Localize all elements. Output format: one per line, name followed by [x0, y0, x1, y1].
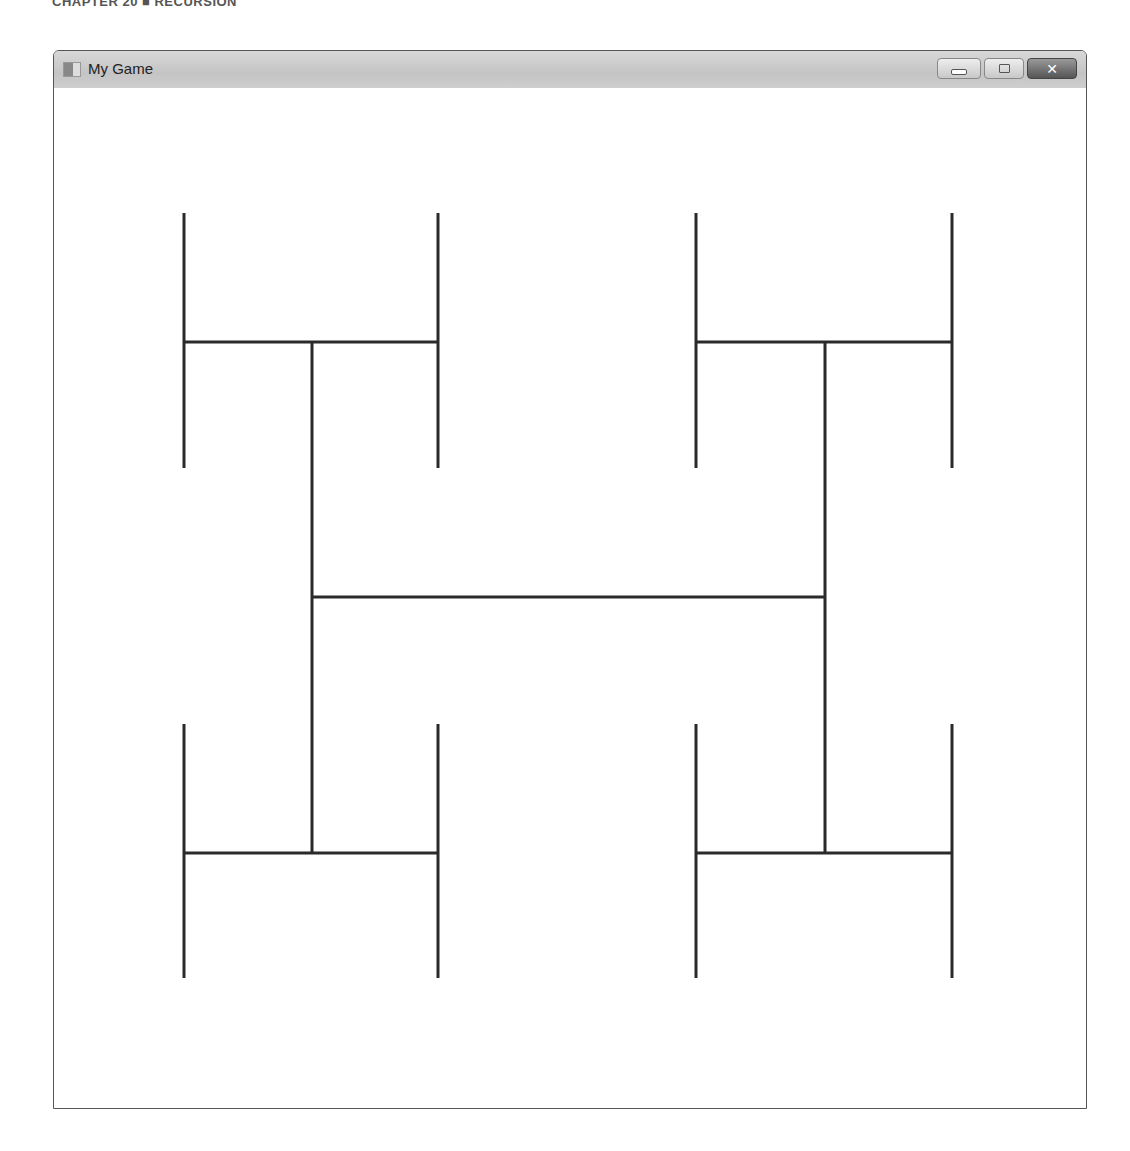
- h-tree-canvas: [0, 0, 1130, 1151]
